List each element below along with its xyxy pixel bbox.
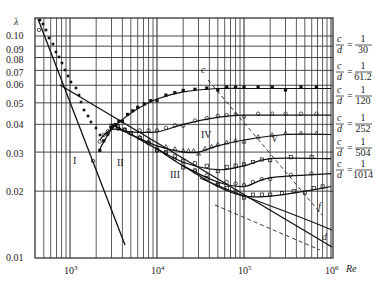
y-tick-0.04: 0.04 (6, 119, 24, 130)
legend-d: d (337, 44, 343, 55)
legend-d: d (337, 95, 343, 106)
plot-grid (35, 18, 333, 258)
region-label-V: V (271, 133, 279, 144)
legend-num: 1 (361, 60, 366, 71)
legend-eq: = (347, 39, 353, 50)
legend-c: c (337, 112, 342, 123)
legend-den: 61.2 (354, 71, 372, 82)
legend-den: 1014 (353, 169, 373, 180)
legend-d: d (337, 169, 343, 180)
x-tick-1e6: 106 (325, 264, 339, 276)
region-label-III: III (170, 169, 180, 180)
friction-factor-chart: λ 0.10 0.09 0.08 0.07 0.06 0.05 0.04 0.0… (0, 0, 382, 283)
legend-item: cd=1120 (336, 84, 372, 106)
legend-c: c (337, 60, 342, 71)
legend-eq: = (347, 90, 353, 101)
legend-num: 1 (361, 33, 366, 44)
legend-d: d (337, 71, 343, 82)
region-label-II: II (117, 157, 124, 168)
y-tick-0.05: 0.05 (6, 98, 24, 109)
legend-num: 1 (361, 84, 366, 95)
annotation-f: f (318, 201, 322, 212)
legend-c: c (337, 33, 342, 44)
legend-c: c (337, 136, 342, 147)
legend-den: 120 (356, 95, 371, 106)
y-tick-0.07: 0.07 (6, 67, 24, 78)
legend-eq: = (347, 118, 353, 129)
legend-den: 504 (356, 147, 371, 158)
annotation-c: c (201, 64, 206, 75)
legend-d: d (337, 123, 343, 134)
y-axis-symbol: λ (13, 16, 19, 27)
legend-eq: = (347, 142, 353, 153)
y-tick-0.06: 0.06 (6, 79, 24, 90)
legend-item: cd=1504 (336, 136, 372, 158)
legend-item: cd=130 (336, 33, 372, 55)
legend-c: c (337, 84, 342, 95)
y-tick-0.01: 0.01 (6, 252, 24, 263)
y-tick-0.10: 0.10 (6, 30, 24, 41)
x-tick-1e4: 104 (151, 264, 165, 276)
region-label-IV: IV (201, 129, 212, 140)
legend-eq: = (347, 66, 353, 77)
roughness-legend: cd=130cd=161.2cd=1120cd=1252cd=1504cd=11… (336, 33, 373, 180)
y-tick-0.02: 0.02 (6, 186, 24, 197)
legend-item: cd=161.2 (336, 60, 372, 82)
legend-num: 1 (361, 158, 366, 169)
x-axis-symbol: Re (345, 263, 357, 274)
region-label-I: I (73, 155, 76, 166)
y-tick-0.03: 0.03 (6, 148, 24, 159)
legend-den: 30 (358, 44, 368, 55)
legend-item: cd=1252 (336, 112, 372, 134)
legend-den: 252 (356, 123, 371, 134)
x-tick-1e5: 105 (238, 264, 252, 276)
legend-c: c (337, 158, 342, 169)
plot-curves (38, 19, 332, 250)
legend-d: d (337, 147, 343, 158)
legend-num: 1 (361, 136, 366, 147)
x-tick-1e3: 103 (64, 264, 78, 276)
y-tick-0.08: 0.08 (6, 54, 24, 65)
legend-item: cd=11014 (336, 158, 373, 180)
legend-num: 1 (361, 112, 366, 123)
